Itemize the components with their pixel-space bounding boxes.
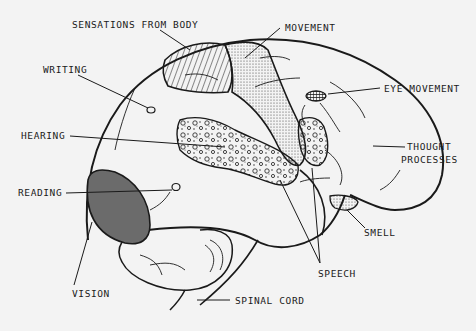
label-sensations-from-body: SENSATIONS FROM BODY (72, 20, 198, 30)
label-thought: THOUGHT (407, 142, 451, 152)
label-spinal-cord: SPINAL CORD (235, 296, 305, 306)
leader-thought (373, 146, 405, 147)
label-hearing: HEARING (21, 131, 65, 141)
vision-region (87, 170, 150, 244)
leader-eye-movement (328, 88, 380, 94)
leader-smell (347, 210, 365, 228)
leader-sensations (160, 30, 190, 50)
label-smell: SMELL (364, 228, 396, 238)
label-writing: WRITING (43, 65, 87, 75)
label-vision: VISION (72, 289, 110, 299)
eye-movement-region (306, 91, 326, 101)
sensations-region (163, 43, 232, 93)
label-speech: SPEECH (318, 269, 356, 279)
temporal-outline (148, 195, 345, 247)
brain-illustration (0, 0, 476, 331)
brain-diagram: SENSATIONS FROM BODY MOVEMENT WRITING EY… (0, 0, 476, 331)
leader-vision (74, 222, 92, 285)
writing-region (147, 107, 155, 113)
label-reading: READING (18, 188, 62, 198)
label-processes: PROCESSES (401, 155, 458, 165)
leader-writing (78, 75, 148, 108)
label-movement: MOVEMENT (285, 23, 336, 33)
temporal-front (300, 170, 325, 235)
label-eye-movement: EYE MOVEMENT (384, 84, 460, 94)
reading-region (172, 184, 180, 191)
